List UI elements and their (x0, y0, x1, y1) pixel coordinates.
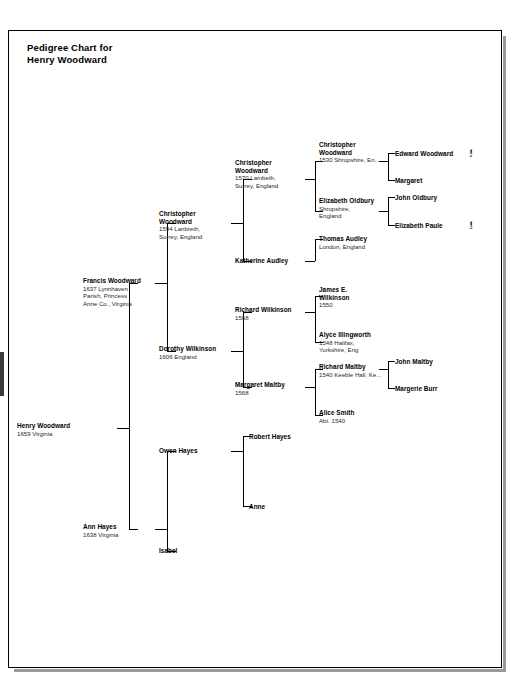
person-node-margaret[interactable]: Margaret (395, 177, 471, 185)
person-name: Dorothy Wilkinson (159, 345, 231, 353)
person-node-christopher-woodward-1530[interactable]: Christopher Woodward 1530 Shropshire, En… (319, 141, 383, 164)
person-details: 1540 Keeble Hall, Ke... (319, 371, 389, 379)
person-name: Christopher Woodward (319, 141, 383, 156)
person-details: 1638 Virginia (83, 531, 155, 539)
person-node-elizabeth-oldbury[interactable]: Elizabeth Oldbury Shropshire, England (319, 197, 383, 220)
continuation-marker-chart-2[interactable]: ⬆ 2 (466, 149, 476, 158)
person-name: Katherine Audley (235, 257, 305, 265)
connector (305, 179, 315, 180)
person-details: London, England (319, 243, 383, 251)
person-node-john-maltby[interactable]: John Maltby (395, 358, 471, 366)
connector (129, 283, 130, 529)
person-name: Christopher Woodward (159, 210, 231, 225)
connector (315, 369, 316, 415)
person-details: Abt. 1540 (319, 417, 383, 425)
connector (388, 197, 395, 198)
person-name: Robert Hayes (249, 433, 319, 441)
person-name: Richard Wilkinson (235, 306, 305, 314)
person-name: Richard Maltby (319, 363, 389, 371)
connector (167, 223, 168, 351)
person-node-ann-hayes[interactable]: Ann Hayes 1638 Virginia (83, 523, 155, 538)
person-node-henry-woodward[interactable]: Henry Woodward 1659 Virginia (17, 422, 87, 437)
connector (155, 283, 167, 284)
person-name: Christopher Woodward (235, 159, 305, 174)
connector (167, 451, 168, 551)
person-details: Shropshire, England (319, 205, 383, 220)
person-details: 1659 Virginia (17, 430, 87, 438)
person-name: Thomas Audley (319, 235, 383, 243)
connector (388, 153, 389, 180)
page-shadow-right (503, 36, 506, 670)
person-node-elizabeth-paule[interactable]: Elizabeth Paule (395, 222, 471, 230)
continuation-chart-number: 3 (466, 225, 476, 230)
person-node-dorothy-wilkinson[interactable]: Dorothy Wilkinson 1606 England (159, 345, 231, 360)
connector (388, 197, 389, 225)
person-node-robert-hayes[interactable]: Robert Hayes (249, 433, 319, 441)
person-node-katherine-audley[interactable]: Katherine Audley (235, 257, 305, 265)
person-name: John Oldbury (395, 194, 471, 202)
person-node-francis-woodward[interactable]: Francis Woodward 1637 Lynnhaven Parish, … (83, 277, 155, 307)
person-details: 1568 (235, 314, 305, 322)
person-name: John Maltby (395, 358, 471, 366)
connector (117, 428, 129, 429)
connector (315, 296, 316, 342)
person-name: Alyce Illingworth (319, 331, 383, 339)
page-title: Pedigree Chart for Henry Woodward (27, 42, 113, 66)
person-node-christopher-woodward-1594[interactable]: Christopher Woodward 1594 Lanbreth, Surr… (159, 210, 231, 240)
person-node-owen-hayes[interactable]: Owen Hayes (159, 447, 231, 455)
connector (388, 388, 395, 389)
connector (243, 312, 244, 387)
person-name: Margerie Burr (395, 385, 471, 393)
person-name: Ann Hayes (83, 523, 155, 531)
person-node-richard-wilkinson[interactable]: Richard Wilkinson 1568 (235, 306, 305, 321)
connector (305, 261, 315, 262)
window-left-gutter (0, 0, 4, 694)
continuation-marker-chart-3[interactable]: ⬆ 3 (466, 221, 476, 230)
person-node-richard-maltby[interactable]: Richard Maltby 1540 Keeble Hall, Ke... (319, 363, 389, 378)
person-details: 1606 England (159, 353, 231, 361)
connector (243, 179, 244, 261)
person-name: Edward Woodward (395, 150, 471, 158)
person-node-thomas-audley[interactable]: Thomas Audley London, England (319, 235, 383, 250)
person-node-john-oldbury[interactable]: John Oldbury (395, 194, 471, 202)
pedigree-chart-screenshot: Pedigree Chart for Henry Woodward (0, 0, 519, 694)
person-details: 1594 Lanbreth, Surrey, England (159, 225, 231, 240)
person-node-christopher-woodward-1570[interactable]: Christopher Woodward 1570 Lambeth, Surre… (235, 159, 305, 189)
person-details: 1570 Lambeth, Surrey, England (235, 174, 305, 189)
person-node-alyce-illingworth[interactable]: Alyce Illingworth 1548 Halifax, Yorkshir… (319, 331, 383, 354)
person-name: Isabel (159, 547, 231, 555)
person-name: Henry Woodward (17, 422, 87, 430)
person-name: Margaret Maltby (235, 381, 305, 389)
person-node-anne[interactable]: Anne (249, 503, 319, 511)
person-name: Alice Smith (319, 409, 383, 417)
person-node-edward-woodward[interactable]: Edward Woodward (395, 150, 471, 158)
person-details: 1530 Shropshire, En... (319, 156, 383, 164)
person-node-margerie-burr[interactable]: Margerie Burr (395, 385, 471, 393)
connector (243, 436, 244, 506)
person-node-margaret-maltby[interactable]: Margaret Maltby 1568 (235, 381, 305, 396)
connector (388, 225, 395, 226)
person-details: 1550 (319, 301, 383, 309)
continuation-chart-number: 2 (466, 153, 476, 158)
scrollbar-thumb[interactable] (0, 352, 4, 396)
person-node-alice-smith[interactable]: Alice Smith Abt. 1540 (319, 409, 383, 424)
person-node-james-e-wilkinson[interactable]: James E. Wilkinson 1550 (319, 286, 383, 309)
connector (305, 312, 315, 313)
connector (155, 529, 167, 530)
connector (315, 239, 316, 261)
person-node-isabel[interactable]: Isabel (159, 547, 231, 555)
person-name: Elizabeth Oldbury (319, 197, 383, 205)
person-name: Margaret (395, 177, 471, 185)
person-name: Francis Woodward (83, 277, 155, 285)
connector (231, 223, 243, 224)
person-name: Anne (249, 503, 319, 511)
person-details: 1568 (235, 389, 305, 397)
page-shadow-bottom (14, 669, 506, 672)
person-details: 1637 Lynnhaven Parish, Princess Anne Co.… (83, 285, 155, 308)
chart-page: Pedigree Chart for Henry Woodward (8, 30, 502, 668)
connector (388, 361, 395, 362)
connector (388, 153, 395, 154)
connector (315, 161, 316, 211)
connector (231, 351, 243, 352)
person-name: Owen Hayes (159, 447, 231, 455)
